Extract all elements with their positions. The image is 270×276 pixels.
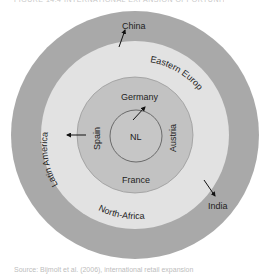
- label-germany: Germany: [121, 92, 159, 102]
- label-austria: Austria: [168, 124, 178, 152]
- label-nl: NL: [130, 132, 142, 142]
- label-spain: Spain: [92, 127, 102, 150]
- label-france: France: [122, 175, 150, 185]
- label-india: India: [208, 201, 228, 211]
- label-china: China: [122, 21, 146, 31]
- source-note: Source: Bijmolt et al. (2006), internati…: [14, 266, 264, 276]
